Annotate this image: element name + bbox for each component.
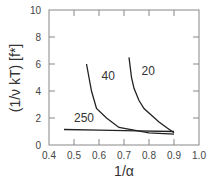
x-tick-label: 1.0 [192, 150, 206, 161]
y-axis-title: (1/ν kT) [f*] [7, 44, 23, 112]
axis-ticks [49, 10, 199, 145]
curve-label-20: 20 [142, 64, 156, 78]
x-axis-title: 1/α [114, 163, 134, 179]
tick-labels: 0.40.50.60.70.80.91.00246810 [30, 5, 207, 162]
curve-labels: 4020250 [74, 64, 155, 125]
y-tick-label: 10 [30, 5, 42, 16]
series-line-250 [64, 130, 174, 132]
y-tick-label: 0 [35, 140, 41, 151]
x-tick-label: 0.9 [167, 150, 181, 161]
x-tick-label: 0.5 [67, 150, 81, 161]
x-tick-label: 0.8 [142, 150, 156, 161]
line-chart: 0.40.50.60.70.80.91.00246810 4020250 1/α… [0, 0, 216, 191]
y-tick-label: 8 [35, 32, 41, 43]
x-tick-label: 0.6 [92, 150, 106, 161]
y-tick-label: 6 [35, 59, 41, 70]
curve-label-250: 250 [74, 111, 94, 125]
x-tick-label: 0.4 [42, 150, 56, 161]
x-tick-label: 0.7 [117, 150, 131, 161]
y-tick-label: 4 [35, 86, 41, 97]
curve-label-40: 40 [102, 69, 116, 83]
plot-frame [49, 10, 199, 145]
y-tick-label: 2 [35, 113, 41, 124]
